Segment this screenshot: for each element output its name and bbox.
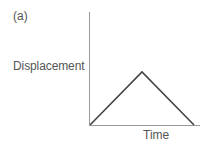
displacement-line [90,72,194,125]
plot-area [0,0,210,155]
